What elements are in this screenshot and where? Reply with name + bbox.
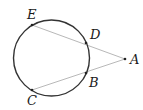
label-e: E [26, 7, 37, 22]
point-c [31, 89, 34, 92]
label-d: D [89, 27, 101, 42]
label-b: B [88, 75, 99, 90]
label-a: A [129, 52, 139, 67]
secant-diagram: E D A B C [0, 0, 143, 110]
point-b [85, 72, 88, 75]
label-c: C [27, 93, 37, 108]
point-a [124, 58, 127, 61]
point-d [85, 42, 88, 45]
segment-ea [32, 25, 125, 59]
point-e [31, 24, 34, 27]
circle [14, 20, 90, 96]
